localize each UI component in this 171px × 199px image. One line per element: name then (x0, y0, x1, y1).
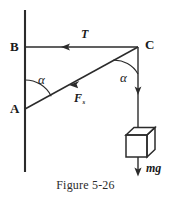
angle-label-a: α (38, 73, 45, 86)
strut-force-subscript: s (83, 98, 86, 106)
weight-arrow (134, 157, 141, 177)
hanging-block (126, 128, 155, 158)
figure-caption: Figure 5-26 (0, 178, 171, 193)
weight-label: mg (146, 162, 161, 174)
strut-force-symbol: F (74, 91, 82, 105)
point-label-c: C (145, 38, 154, 51)
cable-line (135, 47, 142, 128)
strut-force-label: Fs (74, 92, 85, 104)
tension-label: T (81, 28, 88, 40)
angle-label-c: α (120, 71, 127, 84)
figure-container: B A C T Fs mg α α Figure 5-26 (0, 0, 171, 199)
point-label-a: A (10, 102, 19, 115)
point-label-b: B (10, 40, 19, 53)
